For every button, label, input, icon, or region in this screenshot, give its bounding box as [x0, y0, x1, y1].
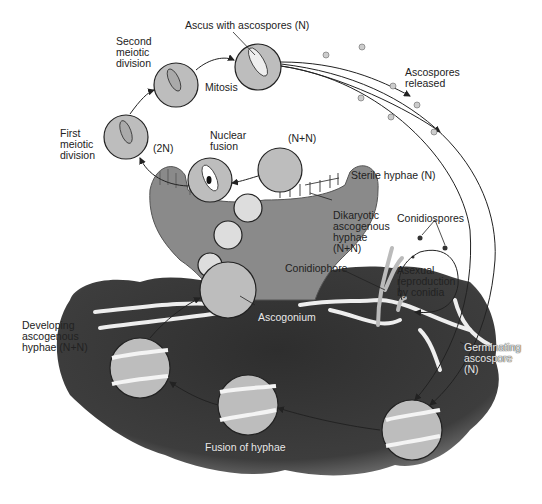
- label-conidiospores: Conidiospores: [397, 213, 464, 224]
- label-2n: (2N): [153, 143, 173, 154]
- label-ascospores-released: Ascospores released: [405, 67, 460, 89]
- stage-hook-1: [234, 194, 262, 222]
- stage-ascogonium: [200, 262, 256, 318]
- stage-developing: [110, 338, 170, 398]
- label-ascus-with-ascospores: Ascus with ascospores (N): [185, 20, 309, 31]
- label-n-plus-n: (N+N): [288, 133, 316, 144]
- ascomycete-life-cycle-diagram: Ascus with ascospores (N) Second meiotic…: [0, 0, 542, 504]
- label-asexual-reproduction: Asexual reproduction by conidia: [397, 265, 455, 298]
- label-developing-ascogenous-hyphae: Developing ascogenous hyphae (N+N): [22, 320, 88, 353]
- stage-hook-2: [214, 221, 242, 249]
- label-germinating-ascospore: Germinating ascospore (N): [464, 342, 521, 375]
- label-nuclear-fusion: Nuclear fusion: [210, 130, 246, 152]
- label-second-meiotic-division: Second meiotic division: [116, 36, 152, 69]
- label-conidiophore: Conidiophore: [285, 263, 347, 274]
- stage-germinating: [382, 400, 442, 460]
- label-ascogonium: Ascogonium: [258, 312, 316, 323]
- label-fusion-of-hyphae: Fusion of hyphae: [205, 442, 286, 453]
- stage-fusion: [218, 375, 278, 435]
- label-mitosis: Mitosis: [205, 82, 238, 93]
- stage-dikaryon: [258, 148, 302, 192]
- diagram-illustration: [0, 0, 542, 504]
- label-first-meiotic-division: First meiotic division: [60, 128, 95, 161]
- label-dikaryotic-ascogenous-hyphae: Dikaryotic ascogenous hyphae (N+N): [333, 210, 390, 254]
- label-sterile-hyphae: Sterile hyphae (N): [351, 170, 436, 181]
